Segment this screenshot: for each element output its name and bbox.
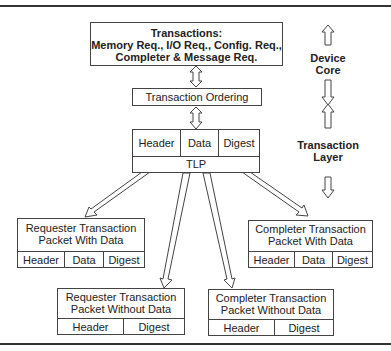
transaction-ordering-label: Transaction Ordering (133, 91, 261, 104)
field-header: Header (58, 319, 124, 335)
field-digest: Digest (124, 319, 184, 335)
tlp-fields-row: Header Data Digest (133, 130, 259, 156)
requester-without-data-fields: Header Digest (58, 318, 184, 335)
field-header: Header (249, 252, 295, 268)
tlp-field-data: Data (181, 130, 219, 156)
completer-with-data-box: Completer Transaction Packet With Data H… (248, 220, 373, 268)
completer-with-data-line-2: Packet With Data (249, 235, 372, 248)
arrow-to-requester-without-data-icon (160, 173, 190, 288)
tlp-box: Header Data Digest TLP (132, 129, 260, 173)
completer-with-data-fields: Header Data Digest (249, 251, 372, 268)
field-header: Header (209, 320, 275, 336)
arrow-to-requester-with-data-icon (85, 172, 150, 217)
field-data: Data (65, 252, 104, 268)
double-arrow-icon (190, 66, 202, 87)
down-arrow-icon (322, 80, 334, 105)
completer-without-data-fields: Header Digest (209, 319, 333, 336)
field-digest: Digest (333, 252, 372, 268)
tlp-field-digest: Digest (219, 130, 259, 156)
field-data: Data (295, 252, 333, 268)
double-arrow-icon (190, 107, 202, 129)
tlp-label: TLP (133, 158, 259, 171)
up-arrow-icon (322, 104, 334, 128)
device-core-label-2: Core (305, 64, 351, 77)
field-header: Header (18, 252, 65, 268)
down-arrow-icon (322, 177, 334, 198)
tlp-diagram: Transactions: Memory Req., I/O Req., Con… (0, 0, 391, 351)
completer-without-data-box: Completer Transaction Packet Without Dat… (208, 289, 334, 336)
arrow-to-completer-with-data-icon (242, 172, 308, 216)
requester-without-data-box: Requester Transaction Packet Without Dat… (57, 288, 185, 335)
arrow-to-completer-without-data-icon (203, 173, 235, 288)
completer-without-data-line-2: Packet Without Data (209, 304, 333, 317)
requester-with-data-fields: Header Data Digest (18, 251, 144, 268)
tlp-field-header: Header (133, 130, 181, 156)
transaction-layer-label-2: Layer (290, 151, 366, 164)
requester-with-data-box: Requester Transaction Packet With Data H… (17, 218, 145, 268)
up-arrow-icon (322, 25, 334, 45)
requester-without-data-line-2: Packet Without Data (58, 303, 184, 316)
field-digest: Digest (275, 320, 333, 336)
requester-with-data-line-2: Packet With Data (18, 234, 144, 247)
field-digest: Digest (104, 252, 144, 268)
tlp-label-row: TLP (133, 156, 259, 172)
transaction-ordering-box: Transaction Ordering (132, 88, 262, 106)
transactions-line-2: Completer & Message Req. (91, 51, 282, 64)
transactions-box: Transactions: Memory Req., I/O Req., Con… (90, 22, 283, 66)
